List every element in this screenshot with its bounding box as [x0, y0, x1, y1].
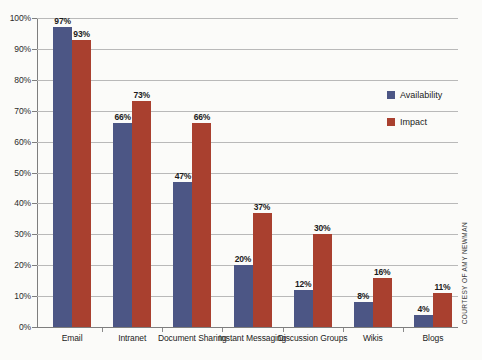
- bar-chart: 0%10%20%30%40%50%60%70%80%90%100% 97%93%…: [0, 0, 482, 360]
- bar-availability[interactable]: 4%: [414, 315, 433, 327]
- bar-value-label: 30%: [314, 223, 330, 233]
- y-tick-label: 20%: [14, 260, 31, 270]
- legend-label-impact: Impact: [400, 117, 427, 127]
- bar-value-label: 47%: [175, 171, 191, 181]
- bar-impact[interactable]: 30%: [313, 234, 332, 327]
- bar-availability[interactable]: 20%: [234, 265, 253, 327]
- y-tick-label: 30%: [14, 229, 31, 239]
- bar-impact[interactable]: 73%: [132, 101, 151, 327]
- x-tick-mark: [343, 328, 344, 332]
- bar-value-label: 93%: [73, 29, 89, 39]
- legend-swatch-icon-impact: [387, 118, 395, 126]
- bar-group: 20%37%: [234, 18, 272, 327]
- x-tick-mark: [102, 328, 103, 332]
- bar-availability[interactable]: 8%: [354, 302, 373, 327]
- y-tick-label: 90%: [14, 44, 31, 54]
- bar-value-label: 20%: [235, 254, 251, 264]
- y-tick-label: 0%: [19, 322, 31, 332]
- x-tick-mark: [283, 328, 284, 332]
- y-tick-label: 100%: [10, 13, 31, 23]
- bar-availability[interactable]: 66%: [113, 123, 132, 327]
- plot-area: 97%93%66%73%47%66%20%37%12%30%8%16%4%11%: [37, 18, 458, 327]
- bar-availability[interactable]: 47%: [173, 182, 192, 327]
- bar-value-label: 12%: [295, 279, 311, 289]
- bar-availability[interactable]: 97%: [53, 27, 72, 327]
- bar-group: 97%93%: [53, 18, 91, 327]
- legend-item-availability[interactable]: Availability: [387, 90, 442, 100]
- bar-value-label: 8%: [357, 291, 369, 301]
- bar-value-label: 73%: [133, 90, 149, 100]
- bar-group: 47%66%: [173, 18, 211, 327]
- bar-impact[interactable]: 11%: [433, 293, 452, 327]
- legend-label-availability: Availability: [400, 90, 442, 100]
- bar-value-label: 66%: [114, 112, 130, 122]
- bar-impact[interactable]: 66%: [192, 123, 211, 327]
- y-tick-label: 60%: [14, 137, 31, 147]
- y-tick-label: 70%: [14, 106, 31, 116]
- gridline: [37, 327, 458, 328]
- bar-impact[interactable]: 16%: [373, 278, 392, 327]
- bar-value-label: 37%: [254, 202, 270, 212]
- bar-value-label: 97%: [54, 16, 70, 26]
- bar-value-label: 16%: [374, 267, 390, 277]
- bar-impact[interactable]: 37%: [253, 213, 272, 327]
- bar-value-label: 4%: [417, 304, 429, 314]
- bar-value-label: 11%: [434, 282, 450, 292]
- legend-item-impact[interactable]: Impact: [387, 117, 442, 127]
- x-axis-label: Blogs: [373, 333, 482, 343]
- bar-availability[interactable]: 12%: [294, 290, 313, 327]
- y-tick-label: 50%: [14, 168, 31, 178]
- bar-impact[interactable]: 93%: [72, 40, 91, 327]
- bar-group: 12%30%: [294, 18, 332, 327]
- x-tick-mark: [222, 328, 223, 332]
- y-tick-label: 80%: [14, 75, 31, 85]
- y-tick-label: 10%: [14, 291, 31, 301]
- y-tick-label: 40%: [14, 198, 31, 208]
- chart-legend: Availability Impact: [387, 90, 442, 144]
- figure-credit: COURTESY OF AMY NEWMAN: [461, 222, 468, 324]
- bar-group: 66%73%: [113, 18, 151, 327]
- legend-swatch-icon-availability: [387, 91, 395, 99]
- bar-value-label: 66%: [194, 112, 210, 122]
- x-tick-mark: [403, 328, 404, 332]
- x-tick-mark: [162, 328, 163, 332]
- bar-group: 4%11%: [414, 18, 452, 327]
- bar-group: 8%16%: [354, 18, 392, 327]
